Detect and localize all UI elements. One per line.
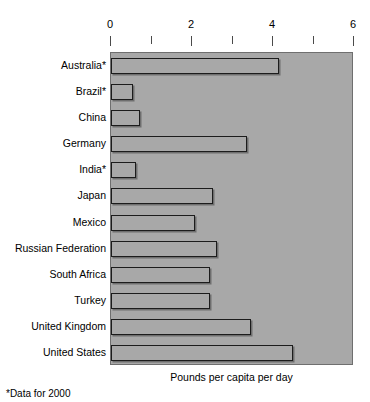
bar-row [111,187,352,205]
x-tick-label-6: 6 [343,18,363,31]
bar-row [111,292,352,310]
bar-row [111,57,352,75]
x-tick-label-2: 2 [181,18,201,31]
bar-row [111,344,352,362]
x-tick-mark-1 [151,36,152,44]
x-tick-mark-6 [353,36,354,46]
x-axis-tick-labels: 0246 [0,18,370,34]
bar-row [111,240,352,258]
category-label-united-kingdom: United Kingdom [0,320,106,332]
bar-australia [111,58,279,74]
x-tick-mark-4 [272,36,273,46]
chart-footnote: *Data for 2000 [6,388,71,399]
category-label-brazil: Brazil* [0,85,106,97]
bar-row [111,266,352,284]
category-axis-labels: Australia*Brazil*ChinaGermanyIndia*Japan… [0,52,106,365]
bar-row [111,83,352,101]
bar-row [111,214,352,232]
category-label-germany: Germany [0,137,106,149]
category-label-japan: Japan [0,189,106,201]
bar-germany [111,136,247,152]
x-tick-mark-5 [313,36,314,44]
bar-brazil [111,84,133,100]
bars-layer [111,53,352,364]
bar-row [111,109,352,127]
bar-south-africa [111,267,210,283]
category-label-turkey: Turkey [0,294,106,306]
x-tick-mark-3 [232,36,233,44]
bar-mexico [111,215,195,231]
bar-row [111,135,352,153]
bar-china [111,110,140,126]
category-label-south-africa: South Africa [0,268,106,280]
bar-united-states [111,345,293,361]
bar-row [111,161,352,179]
bar-row [111,318,352,336]
bar-japan [111,188,213,204]
x-tick-label-4: 4 [262,18,282,31]
x-axis-title: Pounds per capita per day [110,371,353,383]
x-tick-mark-2 [191,36,192,46]
x-tick-mark-0 [110,36,111,46]
category-label-china: China [0,111,106,123]
category-label-australia: Australia* [0,59,106,71]
category-label-mexico: Mexico [0,216,106,228]
category-label-india: India* [0,163,106,175]
x-tick-label-0: 0 [100,18,120,31]
plot-area [110,52,353,365]
bar-turkey [111,293,210,309]
category-label-united-states: United States [0,346,106,358]
bar-russian-federation [111,241,217,257]
bar-india [111,162,136,178]
x-axis-tick-marks [0,36,370,52]
bar-united-kingdom [111,319,251,335]
bar-chart-figure: 0246 Australia*Brazil*ChinaGermanyIndia*… [0,0,370,402]
category-label-russian-federation: Russian Federation [0,242,106,254]
